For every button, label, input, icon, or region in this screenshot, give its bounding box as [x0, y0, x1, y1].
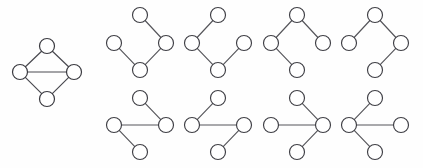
graph-node: [107, 36, 122, 51]
subgraph-grid: [107, 8, 409, 160]
graph-node: [67, 65, 82, 80]
graph-node: [107, 118, 122, 133]
graph-edge: [302, 103, 318, 119]
graph-edge: [302, 130, 318, 146]
graph-node: [159, 118, 174, 133]
graph-edge: [145, 21, 161, 38]
graph-node: [290, 145, 305, 160]
graph-edge: [380, 48, 396, 64]
diamond-graph: [13, 39, 82, 107]
graph-node: [237, 118, 252, 133]
graph-edge: [197, 21, 213, 38]
graph-edge: [197, 103, 213, 119]
subgraph-8: [342, 91, 409, 160]
graph-node: [211, 145, 226, 160]
graph-node: [368, 91, 383, 106]
graph-node: [133, 145, 148, 160]
graph-node: [40, 39, 55, 54]
graph-edge: [223, 130, 239, 146]
subgraph-1: [107, 8, 174, 78]
graph-edge: [276, 21, 292, 38]
graph-edge: [145, 48, 161, 64]
graph-node: [211, 63, 226, 78]
graph-node: [368, 63, 383, 78]
graph-node: [133, 8, 148, 23]
graph-edge: [223, 48, 239, 64]
graph-node: [264, 118, 279, 133]
graph-figure: [0, 0, 423, 168]
subgraph-2: [185, 8, 252, 78]
graph-node: [316, 36, 331, 51]
graph-node: [133, 63, 148, 78]
graph-node: [13, 65, 28, 80]
graph-canvas: [0, 0, 423, 168]
subgraph-4: [342, 8, 409, 78]
graph-node: [133, 91, 148, 106]
graph-node: [368, 8, 383, 23]
graph-edge: [197, 48, 213, 64]
subgraph-7: [264, 91, 331, 160]
graph-edge: [119, 48, 135, 64]
graph-edge: [354, 103, 370, 119]
graph-edge: [354, 21, 370, 38]
graph-edge: [25, 77, 41, 93]
graph-node: [290, 63, 305, 78]
graph-node: [159, 36, 174, 51]
graph-node: [316, 118, 331, 133]
graph-node: [342, 118, 357, 133]
graph-node: [368, 145, 383, 160]
subgraph-6: [185, 91, 252, 160]
graph-node: [290, 91, 305, 106]
graph-node: [40, 92, 55, 107]
graph-node: [290, 8, 305, 23]
graph-node: [342, 36, 357, 51]
graph-edge: [119, 130, 135, 146]
graph-node: [394, 36, 409, 51]
graph-edge: [302, 21, 318, 38]
graph-edge: [52, 51, 68, 67]
subgraph-3: [264, 8, 331, 78]
graph-node: [394, 118, 409, 133]
graph-node: [185, 118, 200, 133]
graph-edge: [145, 103, 161, 119]
subgraph-5: [107, 91, 174, 160]
graph-edge: [354, 130, 370, 146]
graph-node: [211, 91, 226, 106]
graph-edge: [52, 77, 68, 93]
diamond-graph: [13, 39, 82, 107]
graph-node: [237, 36, 252, 51]
graph-edge: [380, 21, 396, 38]
graph-node: [264, 36, 279, 51]
graph-node: [211, 8, 226, 23]
graph-edge: [276, 48, 292, 64]
graph-node: [185, 36, 200, 51]
graph-edge: [25, 51, 41, 67]
